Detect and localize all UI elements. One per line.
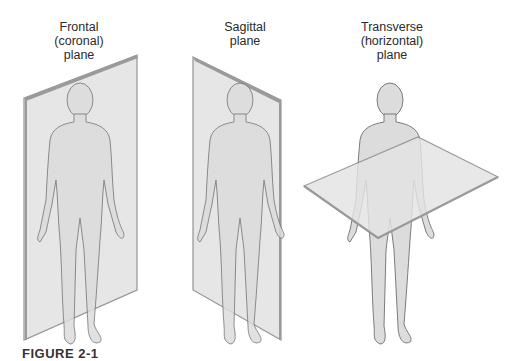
frontal-plane-label: Frontal (coronal) plane xyxy=(24,20,134,62)
transverse-plane xyxy=(304,137,498,238)
figure-caption: FIGURE 2-1 xyxy=(22,346,99,361)
label-line: plane xyxy=(24,48,134,62)
frontal-plane-panel xyxy=(24,55,138,344)
label-line: Frontal xyxy=(24,20,134,34)
transverse-plane-panel xyxy=(304,83,498,344)
label-line: Sagittal xyxy=(190,20,300,34)
label-line: Transverse xyxy=(337,20,447,34)
transverse-plane-label: Transverse (horizontal) plane xyxy=(337,20,447,62)
sagittal-plane-label: Sagittal plane xyxy=(190,20,300,48)
sagittal-plane-panel xyxy=(193,57,284,344)
label-line: (horizontal) xyxy=(337,34,447,48)
label-line: (coronal) xyxy=(24,34,134,48)
label-line: plane xyxy=(337,48,447,62)
label-line: plane xyxy=(190,34,300,48)
